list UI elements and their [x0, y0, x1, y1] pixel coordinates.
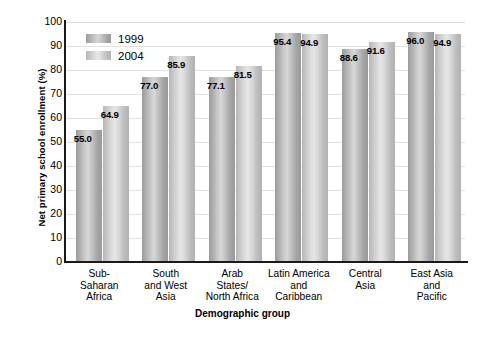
- y-tick-label: 80: [22, 63, 62, 75]
- legend-label: 2004: [118, 50, 144, 62]
- bar-chart: Net primary school enrollment (%) 100908…: [0, 0, 485, 337]
- bar-group: 77.181.5: [209, 22, 262, 262]
- bar-2004-1: [169, 56, 195, 262]
- bar-1999-5: [408, 32, 434, 262]
- bar-1999-0: [76, 130, 102, 262]
- bar-2004-0: [103, 106, 129, 262]
- x-tick-line: Pacific: [380, 291, 484, 303]
- bar-value-label: 85.9: [167, 59, 185, 70]
- bar-value-label: 95.4: [273, 36, 291, 47]
- x-tick-line: and: [380, 280, 484, 292]
- bar-2004-5: [435, 34, 461, 262]
- y-tick-label: 100: [22, 15, 62, 27]
- x-axis-title: Demographic group: [0, 308, 485, 319]
- bar-value-label: 64.9: [101, 109, 119, 120]
- bar-value-label: 55.0: [74, 133, 92, 144]
- y-tick-label: 30: [22, 183, 62, 195]
- y-tick-label: 10: [22, 231, 62, 243]
- bar-1999-1: [142, 77, 168, 262]
- bar-value-label: 81.5: [234, 69, 252, 80]
- y-tick-label: 70: [22, 87, 62, 99]
- legend-item-2004: 2004: [86, 48, 144, 63]
- bar-group: 88.691.6: [342, 22, 395, 262]
- bar-2004-3: [302, 34, 328, 262]
- y-tick-label: 60: [22, 111, 62, 123]
- y-tick-label: 20: [22, 207, 62, 219]
- legend-label: 1999: [118, 33, 144, 45]
- legend-swatch: [86, 34, 111, 43]
- y-tick-label: 50: [22, 135, 62, 147]
- bar-value-label: 88.6: [340, 52, 358, 63]
- legend: 19992004: [86, 31, 144, 65]
- bar-group: 95.494.9: [275, 22, 328, 262]
- bar-value-label: 91.6: [367, 45, 385, 56]
- legend-item-1999: 1999: [86, 31, 144, 46]
- x-tick-line: Caribbean: [247, 291, 351, 303]
- y-axis-line: [64, 20, 66, 263]
- bar-group: 96.094.9: [408, 22, 461, 262]
- bar-1999-4: [342, 49, 368, 262]
- bar-value-label: 77.0: [140, 80, 158, 91]
- x-tick-line: East Asia: [380, 268, 484, 280]
- bar-value-label: 96.0: [406, 35, 424, 46]
- legend-swatch: [86, 51, 111, 60]
- bar-1999-2: [209, 77, 235, 262]
- y-tick-label: 0: [22, 255, 62, 267]
- y-tick-label: 40: [22, 159, 62, 171]
- bar-value-label: 94.9: [433, 37, 451, 48]
- y-tick-label: 90: [22, 39, 62, 51]
- x-tick-label: East AsiaandPacific: [380, 268, 484, 303]
- bar-value-label: 77.1: [207, 80, 225, 91]
- bar-value-label: 94.9: [300, 37, 318, 48]
- bar-1999-3: [275, 33, 301, 262]
- x-axis-line: [64, 261, 468, 263]
- bar-2004-2: [236, 66, 262, 262]
- bar-group: 77.085.9: [142, 22, 195, 262]
- bar-2004-4: [369, 42, 395, 262]
- y-axis-ticks: 1009080706050403020100: [18, 22, 62, 262]
